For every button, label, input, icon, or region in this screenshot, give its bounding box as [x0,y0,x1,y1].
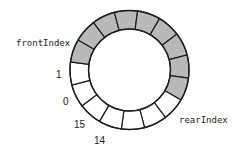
cell-index-label-15: 15 [74,120,85,130]
front-index-label: frontIndex [16,39,70,48]
ring-inner-edge [89,29,171,111]
queue-cell-13 [121,110,144,130]
circular-queue-diagram [0,0,233,151]
queue-cell-1 [70,62,90,85]
rear-index-label: rearIndex [179,116,228,125]
cell-index-label-14: 14 [94,136,105,146]
cell-index-label-1: 1 [56,70,62,80]
queue-cell-5 [114,10,137,30]
queue-cell-9 [169,55,189,78]
cell-index-label-0: 0 [63,97,69,107]
